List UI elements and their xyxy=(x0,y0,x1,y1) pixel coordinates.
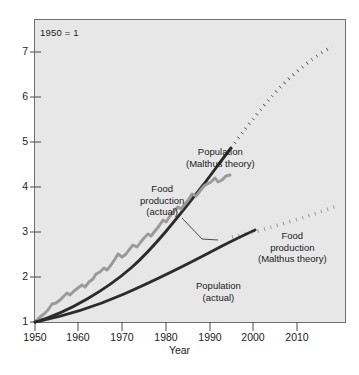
annotation-food-malthus-line1: Food xyxy=(258,230,327,242)
annotation-population-malthus: Population (Malthus theory) xyxy=(186,146,255,169)
x-axis-ticks xyxy=(35,322,297,331)
annotation-food-malthus-line2: production xyxy=(258,242,327,254)
annotation-food-actual-line3: (actual) xyxy=(140,206,184,218)
x-tick-label-1980: 1980 xyxy=(146,331,186,343)
baseline-note: 1950 = 1 xyxy=(40,27,79,38)
y-tick-label-1: 1 xyxy=(12,315,28,327)
y-tick-label-3: 3 xyxy=(12,225,28,237)
x-tick-label-1950: 1950 xyxy=(15,331,55,343)
y-tick-label-5: 5 xyxy=(12,135,28,147)
x-axis-title: Year xyxy=(0,344,359,356)
annotation-food-malthus-line3: (Malthus theory) xyxy=(258,253,327,265)
annotation-food-actual: Food production (actual) xyxy=(140,183,184,218)
x-tick-label-1960: 1960 xyxy=(58,331,98,343)
annotation-population-actual-line1: Population xyxy=(196,280,241,292)
y-tick-label-6: 6 xyxy=(12,90,28,102)
plot-background xyxy=(35,20,346,323)
y-tick-label-7: 7 xyxy=(12,45,28,57)
annotation-food-malthus: Food production (Malthus theory) xyxy=(258,230,327,265)
y-tick-label-4: 4 xyxy=(12,180,28,192)
annotation-population-malthus-line2: (Malthus theory) xyxy=(186,158,255,170)
annotation-population-actual: Population (actual) xyxy=(196,280,241,303)
annotation-population-actual-line2: (actual) xyxy=(196,292,241,304)
chart-figure: 1950 = 1 7 6 5 4 3 2 1 1950 1960 1970 19… xyxy=(0,0,359,375)
x-tick-label-1990: 1990 xyxy=(190,331,230,343)
annotation-food-actual-line2: production xyxy=(140,195,184,207)
x-tick-label-2000: 2000 xyxy=(233,331,273,343)
annotation-population-malthus-line1: Population xyxy=(186,146,255,158)
x-tick-label-2010: 2010 xyxy=(277,331,317,343)
y-tick-label-2: 2 xyxy=(12,270,28,282)
x-tick-label-1970: 1970 xyxy=(102,331,142,343)
annotation-food-actual-line1: Food xyxy=(140,183,184,195)
